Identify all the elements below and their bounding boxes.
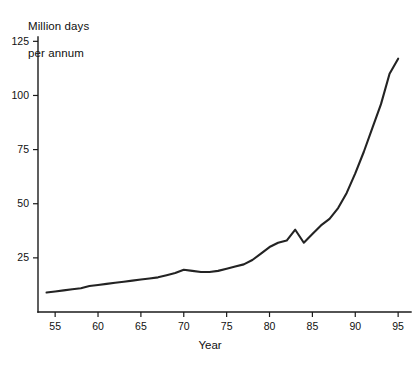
- data-line: [47, 59, 399, 293]
- x-tick-label: 75: [221, 320, 233, 332]
- chart-figure: Million days per annum 255075100125 5560…: [0, 0, 417, 365]
- x-tick-label: 70: [178, 320, 190, 332]
- y-tick-label: 100: [11, 89, 29, 101]
- data-series-group: [47, 59, 399, 293]
- y-tick-label: 125: [11, 35, 29, 47]
- y-tick-label: 25: [17, 251, 29, 263]
- x-tick-label: 85: [307, 320, 319, 332]
- y-tick-group: 255075100125: [11, 35, 38, 264]
- x-axis-title: Year: [198, 339, 221, 351]
- x-tick-label: 60: [92, 320, 104, 332]
- x-tick-label: 80: [264, 320, 276, 332]
- y-tick-label: 50: [17, 197, 29, 209]
- x-tick-label: 65: [135, 320, 147, 332]
- x-tick-group: 556065707580859095: [49, 312, 404, 332]
- x-tick-label: 90: [349, 320, 361, 332]
- x-tick-label: 55: [49, 320, 61, 332]
- x-tick-label: 95: [392, 320, 404, 332]
- plot-area: 255075100125 556065707580859095 Year: [0, 0, 417, 365]
- y-tick-label: 75: [17, 143, 29, 155]
